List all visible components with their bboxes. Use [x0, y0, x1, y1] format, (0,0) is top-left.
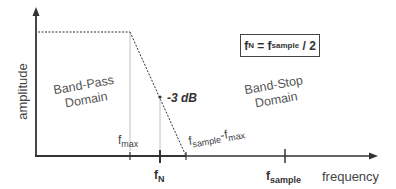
formula-tail: / 2: [299, 39, 316, 53]
formula-sample-sub: sample: [272, 41, 300, 50]
fn-label: fN: [154, 169, 165, 184]
x-axis-arrow-icon: [369, 153, 378, 160]
nyquist-formula-box: fN = fsample / 2: [240, 34, 320, 57]
3db-annotation: -3 dB: [167, 92, 197, 104]
fmax-sub: max: [121, 139, 138, 149]
3db-point: [158, 95, 161, 98]
fsample-sub: sample: [270, 175, 301, 185]
y-axis-label: amplitude: [15, 62, 30, 122]
fn-sub: N: [158, 174, 165, 184]
fsample-label: fsample: [266, 170, 301, 185]
fmax-label: fmax: [118, 134, 138, 149]
formula-eq: = f: [254, 39, 272, 53]
y-axis-arrow-icon: [33, 7, 40, 16]
x-axis-label: frequency: [322, 170, 379, 183]
